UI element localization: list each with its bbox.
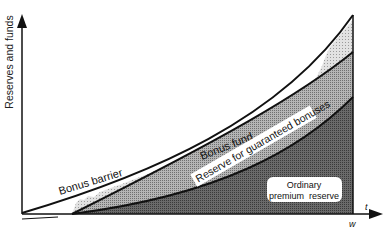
x-axis-label-w: w — [349, 219, 356, 229]
ordinary-label-line1: Ordinary — [287, 180, 322, 190]
ordinary-label-line2: premium reserve — [269, 191, 339, 201]
reserves-diagram: Bonus barrier Bonus fund Reserve for gua… — [0, 0, 387, 230]
x-axis-underline — [22, 217, 58, 219]
y-axis-label: Reserves and funds — [3, 2, 17, 122]
x-axis-arrow-icon — [369, 209, 383, 219]
y-axis-arrow-icon — [17, 14, 27, 28]
x-axis-label-t: t — [365, 202, 368, 212]
